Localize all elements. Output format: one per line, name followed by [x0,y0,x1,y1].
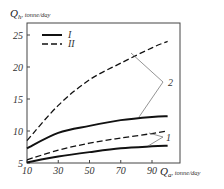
x-tick-label: 50 [85,165,95,176]
series-line-ii-2 [27,41,168,140]
y-tick-label: 15 [13,94,23,105]
series-line-i-1 [27,146,168,163]
x-tick-label: 70 [116,165,126,176]
legend-label-ii: II [67,38,75,49]
series-lines [27,41,168,162]
annotation-2-label: 2 [168,77,173,88]
y-tick-label: 25 [13,30,23,41]
annotation-1-label: 1 [166,132,171,143]
line-chart: 510152025 1030507090 I II 2 1 Qh, tonne/… [0,0,224,189]
x-axis-label: Qa, tonne/day [160,165,200,179]
legend: I II [42,29,75,49]
series-line-i-2 [27,116,168,148]
annotation-2-leader [131,53,163,117]
x-tick-label: 90 [147,165,157,176]
annotation-2: 2 [131,53,173,117]
plot-frame [27,23,180,163]
x-tick-label: 30 [52,165,63,176]
y-tick-label: 20 [13,62,23,73]
x-tick-label: 10 [22,165,32,176]
annotation-1-leader [148,133,163,146]
y-axis-label: Qh, tonne/day [10,7,50,21]
y-tick-label: 10 [13,126,23,137]
svg-text:Qa, tonne/day: Qa, tonne/day [160,165,200,179]
series-line-ii-1 [27,131,168,160]
x-axis-ticks: 1030507090 [22,160,157,176]
svg-text:Qh, tonne/day: Qh, tonne/day [10,7,50,21]
